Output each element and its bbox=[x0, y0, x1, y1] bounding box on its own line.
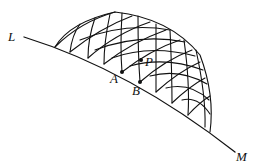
label-m: M bbox=[236, 150, 247, 163]
mesh-curve bbox=[130, 62, 203, 70]
mesh-curve bbox=[170, 30, 172, 103]
label-l: L bbox=[8, 30, 15, 43]
mesh-curve bbox=[55, 12, 115, 47]
mesh-figure bbox=[0, 0, 255, 166]
label-a: A bbox=[110, 72, 118, 85]
mesh-curve bbox=[104, 14, 110, 64]
mesh-curve bbox=[104, 30, 166, 64]
characteristics-diagram: L M A B P bbox=[0, 0, 255, 166]
point-p-marker bbox=[139, 58, 143, 62]
label-b: B bbox=[132, 84, 140, 97]
mesh-curve bbox=[188, 96, 210, 115]
point-a-marker bbox=[120, 70, 124, 74]
mesh-curve bbox=[196, 50, 205, 127]
label-p: P bbox=[145, 55, 153, 68]
